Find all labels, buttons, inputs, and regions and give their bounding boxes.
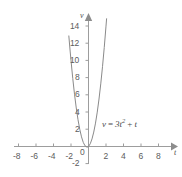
x-axis-label: t xyxy=(174,149,176,157)
x-tick-label-8: 8 xyxy=(156,152,161,161)
equation-lhs: v xyxy=(102,119,106,129)
x-tick-label-negative-6: -6 xyxy=(31,152,38,161)
equation-equals: = xyxy=(108,119,113,129)
plot-area xyxy=(0,0,182,177)
y-tick-label-negative-2: -2 xyxy=(72,159,79,168)
x-tick-label-4: 4 xyxy=(121,152,126,161)
equation-linear-term: t xyxy=(134,119,137,129)
x-tick-label-2: 2 xyxy=(104,152,109,161)
y-axis-label: v xyxy=(80,12,84,20)
x-tick-label-6: 6 xyxy=(139,152,144,161)
origin-label: 0 xyxy=(80,148,85,157)
equation-plus: + xyxy=(127,119,132,129)
equation-exponent: 2 xyxy=(122,117,125,124)
y-tick-label-2: 2 xyxy=(75,125,80,134)
y-axis-arrow-icon xyxy=(85,13,92,21)
x-tick-label-negative-4: -4 xyxy=(48,152,55,161)
y-tick-label-14: 14 xyxy=(70,22,79,31)
y-tick-label-6: 6 xyxy=(75,90,80,99)
y-tick-label-10: 10 xyxy=(70,56,79,65)
parabola-chart: v t 14 12 10 8 6 4 2 -2 0 -8 -6 -4 -2 2 … xyxy=(0,0,182,177)
y-tick-label-4: 4 xyxy=(75,108,80,117)
y-tick-label-8: 8 xyxy=(75,73,80,82)
equation-annotation: v=3t2+t xyxy=(102,120,137,129)
y-tick-label-12: 12 xyxy=(70,39,79,48)
x-tick-label-negative-2: -2 xyxy=(66,152,73,161)
x-tick-label-negative-8: -8 xyxy=(13,152,20,161)
